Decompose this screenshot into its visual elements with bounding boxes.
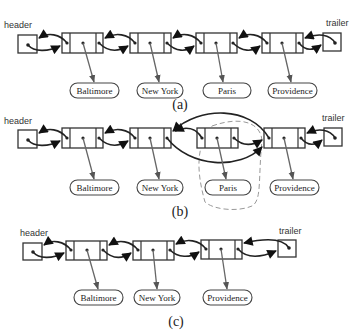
panel-c: header trailer [20, 226, 302, 330]
trailer-label: trailer [326, 18, 349, 28]
element-new-york: New York [137, 83, 183, 98]
caption-b: (b) [172, 204, 189, 220]
trailer-label: trailer [279, 226, 302, 236]
element-providence: Providence [270, 180, 319, 195]
element-new-york: New York [134, 290, 180, 305]
element-new-york: New York [137, 180, 183, 195]
element-providence: Providence [203, 290, 252, 305]
panel-a: header trailer [4, 18, 349, 113]
element-paris: Paris [203, 83, 251, 98]
element-baltimore: Baltimore [74, 290, 123, 305]
svg-text:New York: New York [142, 183, 179, 193]
caption-c: (c) [168, 314, 184, 330]
element-paris: Paris [205, 180, 251, 195]
header-sentinel [18, 35, 37, 53]
header-label: header [20, 228, 48, 238]
element-baltimore: Baltimore [70, 180, 119, 195]
caption-a: (a) [172, 97, 188, 113]
svg-text:Providence: Providence [272, 86, 313, 96]
svg-text:Baltimore: Baltimore [77, 86, 113, 96]
svg-text:Baltimore: Baltimore [77, 183, 113, 193]
element-providence: Providence [268, 83, 317, 98]
trailer-label: trailer [322, 113, 345, 123]
header-sentinel [18, 130, 37, 148]
svg-text:Paris: Paris [218, 86, 236, 96]
node-baltimore [62, 33, 103, 53]
header-label: header [4, 116, 32, 126]
panel-b: header trailer [4, 113, 345, 220]
trailer-sentinel [278, 240, 296, 257]
header-sentinel [23, 243, 42, 260]
svg-text:Providence: Providence [207, 293, 248, 303]
header-label: header [4, 20, 32, 30]
node-baltimore [62, 128, 103, 148]
linked-list-diagram: header trailer [0, 0, 361, 335]
svg-text:New York: New York [142, 86, 179, 96]
svg-text:New York: New York [139, 293, 176, 303]
element-baltimore: Baltimore [70, 83, 119, 98]
svg-text:Providence: Providence [274, 183, 315, 193]
svg-text:Paris: Paris [219, 183, 237, 193]
svg-text:Baltimore: Baltimore [81, 293, 117, 303]
